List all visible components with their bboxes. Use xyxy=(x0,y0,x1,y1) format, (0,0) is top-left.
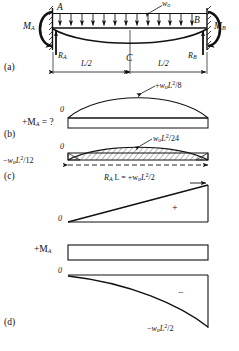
rect-MA-d xyxy=(68,245,208,260)
top-moment-label-c: woL2/24 xyxy=(153,133,179,143)
peak-moment-label-b: +woL2/8 xyxy=(155,80,182,90)
minus-sign-d: − xyxy=(178,288,184,298)
point-b-label: B xyxy=(194,16,200,26)
zero-label-c2: 0 xyxy=(58,215,62,223)
leader-c xyxy=(140,139,152,146)
panel-d-graphics xyxy=(68,245,208,328)
zero-label-d: 0 xyxy=(58,267,62,275)
panel-a-graphics xyxy=(40,6,220,75)
plus-ma-label-d: +MA xyxy=(34,245,51,255)
distributed-load-arrows xyxy=(60,14,192,26)
moment-a-label: MA xyxy=(23,22,35,32)
curve-d xyxy=(68,276,208,327)
moment-b-label: MB xyxy=(214,22,226,32)
zero-label-c: 0 xyxy=(60,143,64,151)
panel-b-graphics xyxy=(68,86,208,128)
triangle-hyp-c xyxy=(68,185,208,222)
zero-label-b: 0 xyxy=(60,106,64,114)
reaction-b-label: RB xyxy=(188,52,197,60)
span-left-label: L/2 xyxy=(81,60,92,68)
base-rect-b xyxy=(68,118,208,128)
ra-moment-label-c: RA L = +woL2/2 xyxy=(104,172,155,182)
span-right-label: L/2 xyxy=(158,60,169,68)
leader-b xyxy=(142,86,155,93)
panel-label-d: (d) xyxy=(4,318,15,328)
panel-label-b: (b) xyxy=(4,130,15,140)
beam-moment-figure: (a) MA MB A B C wo RA RB L/2 L/2 (b) 0 +… xyxy=(0,0,239,351)
load-label-leader xyxy=(150,6,162,13)
hatch-top-c xyxy=(68,147,208,160)
moment-a-unknown-label: +MA = ? xyxy=(22,118,54,128)
plus-sign-c: + xyxy=(172,203,178,213)
panel-label-a: (a) xyxy=(4,63,15,73)
point-c-label: C xyxy=(126,54,132,64)
panel-label-c: (c) xyxy=(4,172,15,182)
load-label: wo xyxy=(162,0,170,8)
point-a-label: A xyxy=(57,3,63,13)
left-moment-label-c: −woL2/12 xyxy=(3,155,34,165)
reaction-a-label: RA xyxy=(58,52,67,60)
parabola-curve-b xyxy=(68,98,208,118)
bottom-moment-label-d: −woL2/2 xyxy=(147,323,174,333)
